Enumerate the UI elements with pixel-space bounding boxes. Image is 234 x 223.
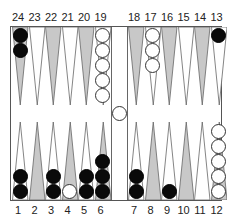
- point-label-9: 9: [159, 204, 175, 216]
- backgammon-board: [10, 26, 222, 201]
- point-label-17: 17: [143, 11, 159, 23]
- point-label-4: 4: [60, 204, 76, 216]
- point-label-19: 19: [93, 11, 109, 23]
- point-label-12: 12: [209, 204, 225, 216]
- point-15[interactable]: [178, 27, 195, 105]
- black-checker[interactable]: [13, 184, 28, 199]
- point-20[interactable]: [78, 27, 95, 105]
- point-label-3: 3: [43, 204, 59, 216]
- point-label-13: 13: [209, 11, 225, 23]
- point-label-6: 6: [93, 204, 109, 216]
- point-label-23: 23: [27, 11, 43, 23]
- point-label-22: 22: [43, 11, 59, 23]
- point-label-20: 20: [76, 11, 92, 23]
- point-21[interactable]: [62, 27, 79, 105]
- black-checker[interactable]: [79, 184, 94, 199]
- point-10[interactable]: [178, 122, 195, 200]
- black-checker[interactable]: [162, 184, 177, 199]
- black-checker[interactable]: [129, 184, 144, 199]
- point-label-21: 21: [60, 11, 76, 23]
- point-8[interactable]: [145, 122, 162, 200]
- black-checker[interactable]: [13, 28, 28, 43]
- point-label-11: 11: [192, 204, 208, 216]
- black-checker[interactable]: [46, 169, 61, 184]
- point-label-5: 5: [76, 204, 92, 216]
- black-checker[interactable]: [129, 169, 144, 184]
- point-label-1: 1: [10, 204, 26, 216]
- point-label-15: 15: [176, 11, 192, 23]
- black-checker[interactable]: [13, 169, 28, 184]
- black-checker[interactable]: [46, 184, 61, 199]
- black-checker[interactable]: [79, 169, 94, 184]
- point-23[interactable]: [29, 27, 46, 105]
- point-16[interactable]: [161, 27, 178, 105]
- point-2[interactable]: [29, 122, 46, 200]
- bar-white-checker[interactable]: [112, 106, 127, 121]
- black-checker[interactable]: [13, 43, 28, 58]
- point-22[interactable]: [45, 27, 62, 105]
- point-label-18: 18: [126, 11, 142, 23]
- point-label-7: 7: [126, 204, 142, 216]
- point-14[interactable]: [194, 27, 211, 105]
- point-label-10: 10: [176, 204, 192, 216]
- point-11[interactable]: [194, 122, 211, 200]
- point-label-8: 8: [143, 204, 159, 216]
- point-label-16: 16: [159, 11, 175, 23]
- point-label-14: 14: [192, 11, 208, 23]
- point-label-24: 24: [10, 11, 26, 23]
- point-label-2: 2: [27, 204, 43, 216]
- point-18[interactable]: [128, 27, 145, 105]
